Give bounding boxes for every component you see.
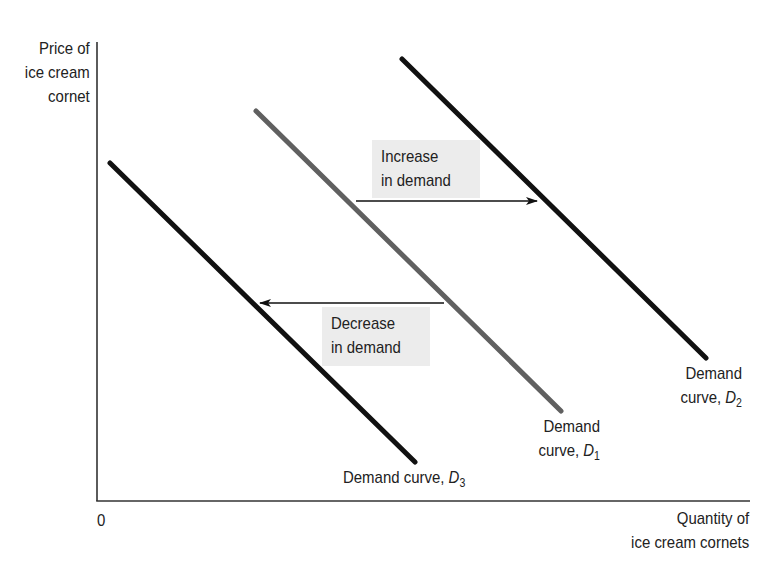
curve-label-line: Demand <box>680 362 742 386</box>
y-axis-label-line: Price of <box>25 37 90 61</box>
origin-label: 0 <box>97 509 105 533</box>
x-axis-label: Quantity of ice cream cornets <box>631 507 749 555</box>
demand-curve-d1-label: Demand curve, D1 <box>538 415 600 468</box>
x-axis-label-line: Quantity of <box>631 507 749 531</box>
curve-subscript: 3 <box>459 476 465 490</box>
curve-label-prefix: curve, <box>538 441 583 460</box>
curve-label-prefix: Demand curve, <box>343 468 449 487</box>
demand-curve-d3-label: Demand curve, D3 <box>343 466 465 495</box>
curve-label-line: curve, D1 <box>538 439 600 468</box>
y-axis-label-line: cornet <box>25 85 90 109</box>
annotation-line: in demand <box>381 169 451 193</box>
curve-label-line: curve, D2 <box>680 386 742 415</box>
y-axis-label-line: ice cream <box>25 61 90 85</box>
decrease-in-demand-label: Decrease in demand <box>331 312 401 360</box>
curve-variable: D <box>583 441 594 460</box>
curve-variable: D <box>725 388 736 407</box>
curve-label-line: Demand <box>538 415 600 439</box>
annotation-line: Increase <box>381 145 451 169</box>
annotation-line: Decrease <box>331 312 401 336</box>
demand-curve-d2 <box>402 59 706 358</box>
curve-variable: D <box>449 468 460 487</box>
curve-label-prefix: curve, <box>680 388 725 407</box>
curve-subscript: 1 <box>594 449 600 463</box>
curve-subscript: 2 <box>736 396 742 410</box>
annotation-line: in demand <box>331 336 401 360</box>
demand-curve-d2-label: Demand curve, D2 <box>680 362 742 415</box>
increase-in-demand-label: Increase in demand <box>381 145 451 193</box>
x-axis-label-line: ice cream cornets <box>631 531 749 555</box>
y-axis-label: Price of ice cream cornet <box>25 37 90 109</box>
